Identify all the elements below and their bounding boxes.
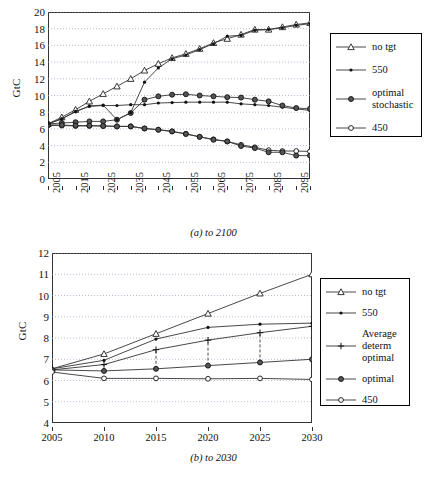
x-tick-mark [208,427,209,431]
x-tick-mark [52,427,53,431]
figure-b-svg [52,253,312,423]
legend-label: optimal stochastic [368,87,416,111]
x-tick-mark [131,186,132,190]
x-tick-mark [241,186,242,190]
figure-a-y-ticks: 02468101214161820 [12,12,45,179]
y-tick-label: 11 [38,269,49,280]
legend-label: optimal [358,373,394,385]
legend-marker-circle-open-icon [334,122,368,134]
figure-a: GtC 02468101214161820 200520152025203520… [0,0,427,240]
y-tick-label: 18 [34,23,45,34]
y-tick-label: 14 [34,57,45,68]
legend-item[interactable]: optimal stochastic [334,87,416,111]
x-tick-mark [186,186,187,190]
y-tick-label: 8 [40,107,46,118]
y-tick-label: 20 [34,7,45,18]
legend-marker-circle-open-icon [324,394,358,406]
legend-label: Average determ optimal [358,328,404,364]
figure-b-x-ticks: 200520102015202020252030 [52,427,312,445]
x-tick-mark [296,186,297,190]
figure-b-y-ticks: 456789101112 [16,253,49,423]
legend-item[interactable]: Average determ optimal [324,328,404,364]
y-tick-label: 12 [34,73,45,84]
legend-label: 450 [358,394,378,406]
x-tick-label: 2015 [146,433,167,444]
x-tick-mark [158,186,159,190]
x-tick-mark [76,186,77,190]
legend-item[interactable]: 550 [324,307,404,319]
legend-marker-dot-small-icon [334,64,368,76]
y-tick-label: 8 [44,333,50,344]
x-tick-mark [117,186,118,190]
y-tick-label: 5 [44,396,50,407]
x-tick-label: 2010 [94,433,115,444]
legend-item[interactable]: 550 [334,64,416,76]
y-tick-label: 0 [40,174,46,185]
x-tick-mark [104,427,105,431]
x-tick-mark [255,186,256,190]
y-tick-label: 2 [40,157,46,168]
legend-label: no tgt [358,286,386,298]
x-tick-mark [156,427,157,431]
x-tick-label: 2020 [198,433,219,444]
y-tick-label: 10 [38,290,49,301]
x-tick-mark [172,186,173,190]
x-tick-label: 2025 [250,433,271,444]
figure-b: GtC 456789101112 20052010201520202025203… [0,240,427,482]
legend-item[interactable]: 450 [324,394,404,406]
figure-a-legend: no tgt550optimal stochastic450 [330,33,422,137]
legend-marker-plus-icon [324,340,358,352]
x-tick-mark [227,186,228,190]
legend-marker-dot-large-icon [324,373,358,385]
figure-b-caption: (b) to 2030 [0,452,427,463]
y-tick-label: 7 [44,354,50,365]
legend-label: no tgt [368,41,396,53]
legend-marker-triangle-open-icon [324,286,358,298]
legend-item[interactable]: optimal [324,373,404,385]
legend-marker-triangle-open-icon [334,41,368,53]
legend-marker-dot-small-icon [324,307,358,319]
legend-item[interactable]: 450 [334,122,416,134]
y-tick-label: 4 [44,418,50,429]
figure-a-x-ticks: 2005201520252035204520552065207520852095 [48,186,310,230]
x-tick-mark [62,186,63,190]
x-tick-label: 2005 [42,433,63,444]
x-tick-mark [269,186,270,190]
x-tick-mark [48,186,49,190]
x-tick-mark [282,186,283,190]
legend-item[interactable]: no tgt [324,286,404,298]
y-tick-label: 16 [34,40,45,51]
y-tick-label: 4 [40,140,46,151]
x-tick-mark [260,427,261,431]
x-tick-mark [312,427,313,431]
legend-label: 550 [358,307,378,319]
x-tick-mark [145,186,146,190]
figure-b-plot [52,253,312,423]
x-tick-label: 2030 [302,433,323,444]
figure-a-svg [48,12,310,179]
legend-label: 450 [368,122,388,134]
y-tick-label: 10 [34,90,45,101]
x-tick-mark [103,186,104,190]
y-tick-label: 9 [44,311,50,322]
x-tick-mark [89,186,90,190]
y-tick-label: 6 [44,375,50,386]
x-tick-mark [200,186,201,190]
y-tick-label: 12 [38,248,49,259]
x-tick-mark [213,186,214,190]
figure-a-caption: (a) to 2100 [0,227,427,238]
x-tick-mark [310,186,311,190]
figure-a-plot [48,12,310,179]
legend-label: 550 [368,64,388,76]
legend-marker-dot-large-icon [334,93,368,105]
legend-item[interactable]: no tgt [334,41,416,53]
figure-b-legend: no tgt550Average determ optimaloptimal45… [320,278,410,406]
figure-page: GtC 02468101214161820 200520152025203520… [0,0,427,482]
y-tick-label: 6 [40,123,46,134]
